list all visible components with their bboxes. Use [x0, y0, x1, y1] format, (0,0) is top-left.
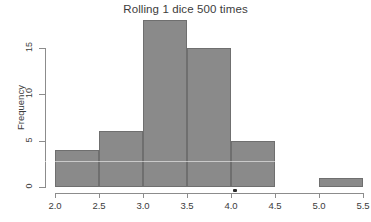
- scan-artifact-speck: [233, 189, 237, 192]
- histogram-bar: [55, 150, 99, 187]
- histogram-bar: [319, 178, 363, 187]
- x-tick-label: 3.5: [172, 200, 202, 211]
- y-tick: [39, 141, 45, 142]
- y-axis-line: [45, 48, 46, 188]
- x-tick: [187, 193, 188, 198]
- x-tick-label: 4.5: [260, 200, 290, 211]
- y-tick-label: 5: [24, 133, 34, 147]
- x-tick: [319, 193, 320, 198]
- histogram-chart: Rolling 1 dice 500 times Frequency 05101…: [0, 0, 371, 222]
- histogram-bar: [187, 48, 231, 187]
- y-tick: [39, 48, 45, 49]
- y-tick-label: 0: [24, 179, 34, 193]
- x-tick: [275, 193, 276, 198]
- histogram-bar: [231, 141, 275, 187]
- x-tick-label: 4.0: [216, 200, 246, 211]
- x-tick: [363, 193, 364, 198]
- y-tick-label: 10: [24, 86, 34, 100]
- x-axis-line: [55, 193, 363, 194]
- x-tick-label: 5.0: [304, 200, 334, 211]
- x-tick-label: 5.5: [348, 200, 371, 211]
- x-tick: [143, 193, 144, 198]
- y-tick: [39, 94, 45, 95]
- y-tick: [39, 187, 45, 188]
- y-tick-label: 15: [24, 40, 34, 54]
- histogram-bar: [143, 20, 187, 187]
- x-tick-label: 2.5: [84, 200, 114, 211]
- x-tick: [231, 193, 232, 198]
- x-tick-label: 2.0: [40, 200, 70, 211]
- x-tick-label: 3.0: [128, 200, 158, 211]
- plot-area: 051015 2.02.53.03.54.04.55.05.5: [0, 0, 371, 222]
- x-tick: [55, 193, 56, 198]
- x-tick: [99, 193, 100, 198]
- histogram-bar: [99, 131, 143, 187]
